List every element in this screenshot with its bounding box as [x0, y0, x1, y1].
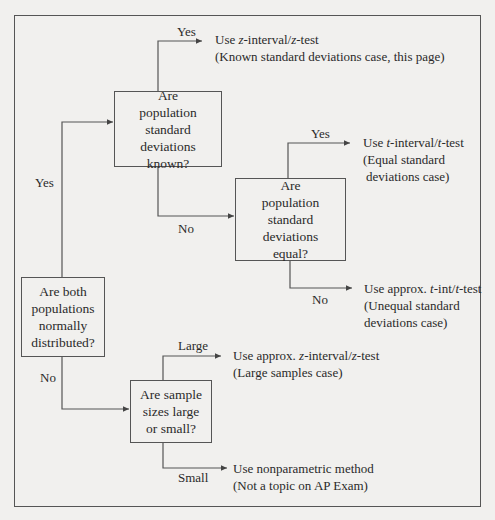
decision-equal-text: Are population standard deviations equal…: [252, 177, 329, 262]
label-sizes-large: Large: [178, 338, 208, 354]
decision-known: Are population standard deviations known…: [114, 91, 222, 167]
label-normal-no: No: [40, 370, 56, 386]
decision-normal: Are both populations normally distribute…: [21, 277, 105, 357]
result-t-equal: Use t-interval/t-test (Equal standard de…: [363, 134, 464, 185]
result-z-large: Use approx. z-interval/z-test (Large sam…: [233, 347, 379, 381]
decision-equal: Are population standard deviations equal…: [235, 178, 346, 261]
decision-known-text: Are population standard deviations known…: [129, 87, 207, 172]
label-normal-yes: Yes: [35, 175, 54, 191]
decision-sizes-text: Are sample sizes large or small?: [139, 386, 203, 437]
result-z-interval: Use z-interval/z-test (Known standard de…: [215, 31, 445, 65]
result-t-unequal: Use approx. t-int/t-test (Unequal standa…: [364, 280, 481, 331]
decision-sizes: Are sample sizes large or small?: [130, 380, 212, 443]
label-known-no: No: [178, 221, 194, 237]
label-equal-yes: Yes: [311, 126, 330, 142]
result-nonparametric: Use nonparametric method (Not a topic on…: [233, 460, 374, 494]
label-known-yes: Yes: [177, 24, 196, 40]
label-sizes-small: Small: [178, 470, 208, 486]
decision-normal-text: Are both populations normally distribute…: [28, 283, 98, 351]
label-equal-no: No: [312, 292, 328, 308]
